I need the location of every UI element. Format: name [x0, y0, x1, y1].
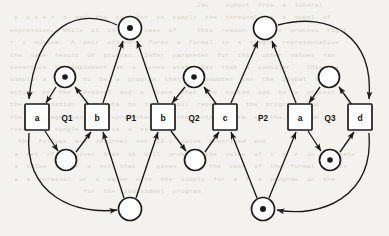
place-p1-bottom[interactable] — [119, 198, 142, 221]
transition-c[interactable]: c — [213, 104, 237, 130]
arc-p1bot-b1 — [103, 132, 124, 198]
place-p1-top[interactable] — [119, 17, 142, 40]
arc-b2-p1top — [137, 41, 158, 103]
place-q3-bottom[interactable] — [320, 150, 341, 171]
arc-c1-p2top — [231, 41, 258, 103]
arc-c1-q2top — [204, 87, 217, 105]
place-q2-bottom[interactable] — [185, 150, 206, 171]
place-p2-bottom[interactable] — [252, 198, 275, 221]
place-q1-top[interactable] — [55, 67, 76, 88]
transition-b-left[interactable]: b — [85, 104, 109, 130]
place-p2-top[interactable] — [254, 17, 277, 40]
transition-a-right[interactable]: a — [288, 104, 312, 130]
petri-net-canvas: a b b c a d — [0, 0, 389, 236]
arc-q3top-a2 — [309, 87, 320, 103]
label-q1: Q1 — [62, 114, 73, 123]
transition-d[interactable]: d — [348, 104, 372, 130]
place-q1-bottom[interactable] — [56, 150, 77, 171]
arc-a1-p1bot — [29, 133, 117, 211]
transition-label: a — [35, 113, 40, 123]
arc-a2-p2top — [272, 41, 296, 103]
place-q2-top[interactable] — [184, 67, 205, 88]
arc-q1top-a1 — [46, 87, 56, 103]
arc-q2bot-c1 — [205, 132, 219, 152]
arc-a1-q1bot — [45, 131, 58, 151]
transition-label: d — [357, 113, 362, 123]
arc-q1bot-b1 — [76, 132, 91, 152]
arc-b1-p1top — [103, 41, 123, 103]
token — [191, 74, 197, 80]
arc-q2top-b2 — [172, 87, 185, 103]
arc-b2-q2bot — [171, 131, 186, 151]
arc-p1bot-b2 — [136, 132, 158, 198]
label-p1: P1 — [126, 114, 136, 123]
transition-label: b — [94, 113, 99, 123]
label-q2: Q2 — [189, 114, 200, 123]
arc-p2bot-c1 — [231, 132, 257, 198]
arc-a2-q3bot — [308, 131, 321, 151]
transition-a-left[interactable]: a — [25, 104, 49, 130]
transition-b-mid[interactable]: b — [151, 104, 175, 130]
transition-label: b — [160, 113, 165, 123]
label-q3: Q3 — [325, 114, 336, 123]
arc-d1-q3top — [339, 87, 352, 105]
arc-p1top-a1 — [29, 18, 117, 99]
token — [260, 206, 266, 212]
token — [327, 157, 333, 163]
place-q3-top[interactable] — [319, 67, 340, 88]
diagram-stage: 29c output from a literal p u s e r s an… — [0, 0, 389, 236]
arc-b1-q1top — [75, 87, 89, 105]
arc-p2bot-a2 — [269, 132, 296, 198]
label-p2: P2 — [258, 114, 268, 123]
token — [62, 74, 68, 80]
transition-label: c — [223, 113, 228, 123]
transition-label: a — [298, 113, 303, 123]
arc-q3bot-d1 — [340, 132, 354, 152]
arc-p2top-d1 — [278, 21, 369, 99]
token — [127, 25, 133, 31]
